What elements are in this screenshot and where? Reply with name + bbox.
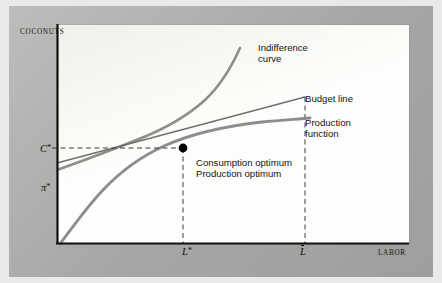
- tick-label-c-star-text: C: [40, 143, 47, 154]
- callout-indifference-curve: Indifference curve: [258, 42, 308, 65]
- tick-label-l-star-asterisk: *: [188, 245, 192, 255]
- indifference-curve: [57, 48, 240, 170]
- tick-label-c-star: C*: [40, 142, 51, 154]
- callout-indifference-line1: Indifference: [258, 42, 308, 53]
- tick-label-l-star: L*: [182, 245, 192, 257]
- production-function: [60, 118, 310, 244]
- tick-label-pi-star-asterisk: *: [46, 181, 50, 191]
- callout-indifference-line2: curve: [258, 53, 308, 64]
- tick-label-l-bar: L: [300, 245, 306, 257]
- callout-optimum: Consumption optimum Production optimum: [196, 157, 292, 180]
- callout-production-optimum: Production optimum: [196, 168, 292, 179]
- callout-production-line1: Production: [305, 117, 351, 128]
- callout-production-line2: function: [305, 128, 351, 139]
- figure-container: COCONUTS LABOR C* π* L* L Indifference c…: [0, 0, 442, 283]
- callout-consumption-optimum: Consumption optimum: [196, 157, 292, 168]
- budget-line: [57, 97, 305, 163]
- tick-label-c-star-asterisk: *: [47, 142, 51, 152]
- callout-budget-line: Budget line: [305, 93, 353, 104]
- chart-drawing: [0, 0, 442, 283]
- x-axis-title: LABOR: [378, 249, 406, 257]
- callout-production-function: Production function: [305, 117, 351, 140]
- y-axis-title: COCONUTS: [20, 28, 64, 36]
- optimum-point: [179, 144, 188, 153]
- tick-label-pi-star: π*: [41, 181, 51, 193]
- tick-label-l-bar-text: L: [300, 245, 306, 257]
